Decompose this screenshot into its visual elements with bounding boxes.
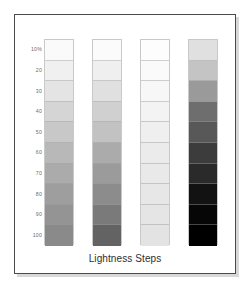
- color-swatch: [45, 205, 73, 226]
- color-swatch: [45, 61, 73, 82]
- color-swatch: [189, 81, 217, 102]
- color-swatch: [189, 164, 217, 185]
- color-swatch: [93, 81, 121, 102]
- lightness-steps-figure: 10%2030405060708090100 Lightness Steps: [0, 0, 251, 289]
- color-swatch: [45, 164, 73, 185]
- color-swatch: [93, 40, 121, 61]
- color-swatch: [141, 102, 169, 123]
- color-swatch: [45, 81, 73, 102]
- axis-tick-label: 90: [18, 211, 42, 217]
- color-swatch: [93, 61, 121, 82]
- lightness-ramp-column-3: [140, 39, 170, 245]
- axis-tick-label: 10%: [18, 46, 42, 52]
- color-swatch: [189, 122, 217, 143]
- color-swatch: [141, 122, 169, 143]
- color-swatch: [189, 143, 217, 164]
- axis-tick-label: 40: [18, 108, 42, 114]
- lightness-ramp-column-1: [44, 39, 74, 245]
- axis-tick-label: 60: [18, 149, 42, 155]
- lightness-ramp-column-4: [188, 39, 218, 245]
- color-swatch: [141, 184, 169, 205]
- color-swatch: [93, 184, 121, 205]
- color-swatch: [141, 205, 169, 226]
- color-swatch: [189, 102, 217, 123]
- color-swatch: [45, 40, 73, 61]
- color-swatch: [189, 225, 217, 246]
- axis-tick-label: 30: [18, 88, 42, 94]
- color-swatch: [93, 102, 121, 123]
- axis-tick-label: 20: [18, 67, 42, 73]
- color-swatch: [93, 205, 121, 226]
- axis-tick-labels: 10%2030405060708090100: [18, 39, 42, 245]
- axis-tick-label: 100: [18, 232, 42, 238]
- color-swatch: [93, 143, 121, 164]
- color-swatch: [141, 61, 169, 82]
- color-swatch: [93, 122, 121, 143]
- color-swatch: [141, 225, 169, 246]
- plot-area: 10%2030405060708090100 Lightness Steps: [0, 0, 251, 289]
- color-swatch: [45, 102, 73, 123]
- axis-tick-label: 50: [18, 129, 42, 135]
- axis-tick-label: 80: [18, 191, 42, 197]
- figure-caption: Lightness Steps: [14, 252, 236, 265]
- color-swatch: [189, 61, 217, 82]
- color-swatch: [45, 122, 73, 143]
- color-swatch: [189, 40, 217, 61]
- color-swatch: [141, 81, 169, 102]
- color-swatch: [141, 143, 169, 164]
- color-swatch: [141, 40, 169, 61]
- color-swatch: [45, 184, 73, 205]
- color-swatch: [141, 164, 169, 185]
- color-swatch: [45, 225, 73, 246]
- lightness-ramp-column-2: [92, 39, 122, 245]
- color-swatch: [93, 164, 121, 185]
- color-swatch: [189, 205, 217, 226]
- color-swatch: [45, 143, 73, 164]
- color-swatch: [189, 184, 217, 205]
- axis-tick-label: 70: [18, 170, 42, 176]
- color-swatch: [93, 225, 121, 246]
